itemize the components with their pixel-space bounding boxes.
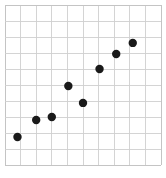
data-point	[13, 133, 21, 141]
scatter-plot-svg	[0, 0, 166, 178]
data-point	[32, 116, 40, 124]
data-point	[79, 99, 87, 107]
plot-area	[0, 0, 166, 178]
data-point	[129, 39, 137, 47]
data-point	[48, 113, 56, 121]
data-point	[95, 65, 103, 73]
data-point	[112, 50, 120, 58]
data-point	[64, 82, 72, 90]
scatter-plot-screenshot	[0, 0, 166, 178]
